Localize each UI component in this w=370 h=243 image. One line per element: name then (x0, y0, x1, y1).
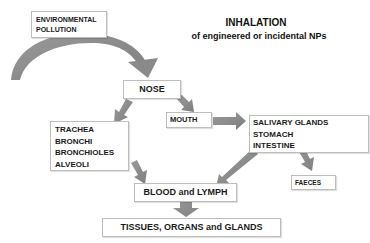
node-line: ALVEOLI (55, 159, 124, 171)
curved-arrow-pollution-to-nose (11, 33, 158, 80)
node-environmental-pollution: ENVIRONMENTAL POLLUTION (31, 11, 107, 38)
node-label: MOUTH (170, 113, 208, 127)
node-label: FAECES (295, 176, 332, 189)
node-line: SALIVARY GLANDS (253, 117, 365, 129)
node-line: POLLUTION (36, 25, 102, 35)
node-tissues-organs-glands: TISSUES, ORGANS and GLANDS (102, 218, 281, 237)
node-faeces: FAECES (291, 175, 336, 190)
node-line: INTESTINE (253, 140, 365, 152)
node-line: STOMACH (253, 129, 365, 141)
node-line: BRONCHIOLES (55, 147, 124, 159)
node-digestive: SALIVARY GLANDS STOMACH INTESTINE (249, 115, 369, 153)
arrow-digestive-to-blood (216, 149, 258, 187)
node-label: BLOOD and LYMPH (135, 184, 236, 201)
node-nose: NOSE (123, 80, 181, 99)
title-main: INHALATION (226, 17, 287, 28)
node-blood-lymph: BLOOD and LYMPH (134, 183, 237, 202)
node-line: ENVIRONMENTAL (36, 15, 102, 25)
node-mouth: MOUTH (166, 112, 212, 128)
node-respiratory: TRACHEA BRONCHI BRONCHIOLES ALVEOLI (50, 121, 129, 171)
node-label: NOSE (124, 81, 180, 98)
diagram-subtitle: of engineered or incidental NPs (166, 31, 352, 42)
diagram-title: INHALATION (196, 17, 316, 29)
node-line: TRACHEA (55, 124, 124, 136)
title-subtitle: of engineered or incidental NPs (191, 31, 326, 41)
node-label: TISSUES, ORGANS and GLANDS (103, 219, 280, 236)
arrow-blood-to-tissues (173, 202, 199, 217)
arrow-respiratory-to-blood (131, 160, 147, 184)
arrow-mouth-to-digestive (213, 112, 246, 130)
node-line: BRONCHI (55, 136, 124, 148)
